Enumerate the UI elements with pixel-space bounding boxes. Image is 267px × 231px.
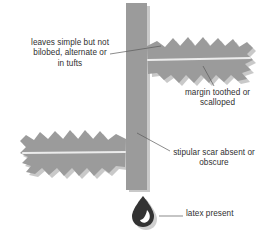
vertical-stem bbox=[126, 3, 147, 190]
latex-droplet bbox=[132, 196, 157, 230]
annotation-stipular-scar: stipular scar absent or obscure bbox=[161, 148, 267, 169]
diagram-illustration bbox=[0, 0, 267, 231]
toothed-leaf-lower-left bbox=[20, 130, 126, 176]
lower-leaf-midrib bbox=[23, 152, 125, 153]
botanical-diagram: leaves simple but not bilobed, alternate… bbox=[0, 0, 267, 231]
annotation-leaves-simple: leaves simple but not bilobed, alternate… bbox=[8, 38, 132, 69]
annotation-margin-toothed: margin toothed or scalloped bbox=[168, 88, 267, 109]
annotation-latex-present: latex present bbox=[186, 209, 264, 219]
